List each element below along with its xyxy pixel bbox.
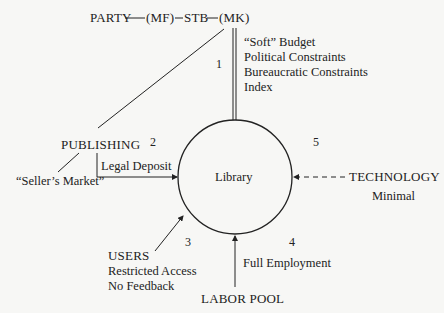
sector-number-5: 5: [313, 135, 319, 149]
sellers-market-label: “Seller’s Market”: [16, 174, 104, 188]
technology-label: TECHNOLOGY: [349, 170, 440, 184]
mk-label: (MK): [219, 11, 249, 25]
state-input-budget: “Soft” Budget: [244, 35, 315, 49]
sector-number-2: 2: [150, 135, 156, 149]
diagram-lines: [0, 0, 444, 313]
sector-number-3: 3: [185, 235, 191, 249]
publishing-label: PUBLISHING: [61, 138, 140, 152]
library-label: Library: [215, 170, 252, 184]
labor-pool-label: LABOR POOL: [201, 292, 284, 306]
sellers-market-line: [58, 153, 79, 172]
sector-number-4: 4: [289, 235, 295, 249]
users-arrow: [155, 216, 183, 251]
technology-note: Minimal: [372, 189, 415, 203]
party-publishing-line: [98, 29, 224, 128]
party-label: PARTY: [90, 11, 132, 25]
users-note-feedback: No Feedback: [108, 279, 174, 293]
users-label: USERS: [108, 249, 149, 263]
mf-label: (MF): [146, 11, 174, 25]
state-input-bureaucratic: Bureaucratic Constraints: [244, 65, 368, 79]
users-note-access: Restricted Access: [108, 264, 197, 278]
sector-number-1: 1: [216, 57, 222, 71]
state-input-political: Political Constraints: [244, 50, 346, 64]
state-input-index: Index: [244, 80, 272, 94]
legal-deposit-label: Legal Deposit: [101, 159, 171, 173]
labor-note: Full Employment: [243, 256, 331, 270]
stb-label: STB: [184, 11, 208, 25]
